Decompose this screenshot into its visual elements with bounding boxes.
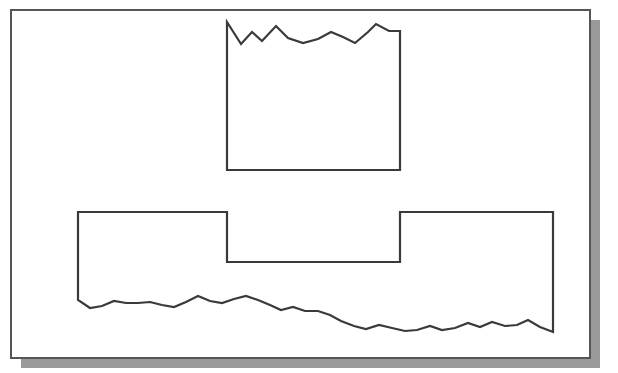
figure-canvas <box>0 0 618 373</box>
figure-svg <box>0 0 618 373</box>
